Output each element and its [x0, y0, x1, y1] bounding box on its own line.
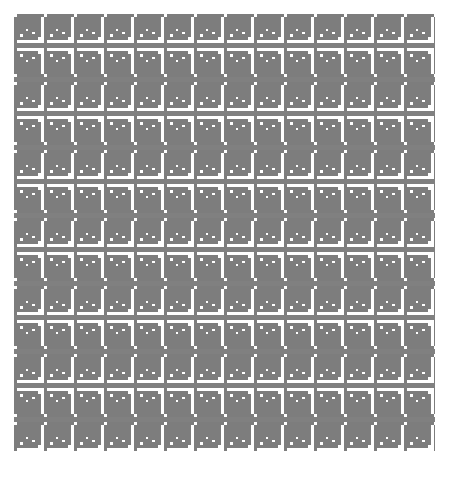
pattern-band — [14, 14, 435, 43]
pattern-band — [14, 422, 435, 451]
pattern-band — [14, 388, 435, 417]
pattern-band — [14, 320, 435, 349]
pattern-band — [14, 150, 435, 179]
pattern-band — [14, 116, 435, 145]
pattern-band — [14, 354, 435, 383]
pattern-band — [14, 184, 435, 213]
pattern-band — [14, 82, 435, 111]
pattern-band — [14, 286, 435, 315]
pattern-artboard — [0, 0, 449, 477]
pattern-plate — [14, 14, 435, 456]
pattern-band — [14, 252, 435, 281]
pattern-band — [14, 218, 435, 247]
pattern-band — [14, 48, 435, 77]
